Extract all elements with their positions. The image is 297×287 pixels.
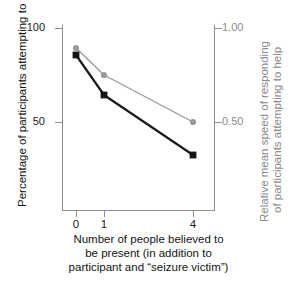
x-axis-title: Number of people believed to be present … xyxy=(0,232,297,274)
series-speed-point-1 xyxy=(101,72,107,78)
series-percentage-line xyxy=(76,55,193,155)
x-axis-title-line-1: Number of people believed to xyxy=(0,232,297,246)
series-percentage-point-2 xyxy=(190,152,197,159)
series-speed-line xyxy=(76,48,193,122)
series-percentage-point-0 xyxy=(73,52,80,59)
series-speed-point-0 xyxy=(73,45,79,51)
left-axis-title: Percentage of participants attempting to… xyxy=(16,0,29,207)
series-speed-point-2 xyxy=(190,119,196,125)
right-axis-title-line-1: Relative mean speed of responding xyxy=(258,41,271,222)
x-axis-title-line-2: be present (in addition to xyxy=(0,246,297,260)
figure-canvas: 100 50 1.00 0.50 0 1 4 Percentage of par… xyxy=(0,0,297,287)
right-axis-title-line-2: of participants attempting to help xyxy=(271,41,284,222)
x-axis-title-line-3: participant and “seizure victim”) xyxy=(0,260,297,274)
series-percentage-point-1 xyxy=(101,92,108,99)
right-axis-title: Relative mean speed of responding of par… xyxy=(258,41,284,222)
